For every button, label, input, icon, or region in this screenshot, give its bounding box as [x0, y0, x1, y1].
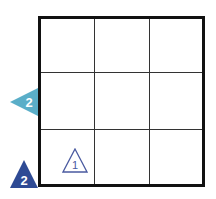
grid-cell-r1c2[interactable]	[95, 19, 149, 72]
left-clue-triangle: 2	[10, 88, 38, 116]
puzzle-grid: 1	[38, 16, 205, 187]
cell-clue-triangle: 1	[62, 148, 88, 173]
grid-cell-r3c1[interactable]: 1	[41, 130, 94, 184]
grid-cell-r2c3[interactable]	[150, 73, 202, 129]
cell-clue-value: 1	[72, 159, 78, 171]
grid-cell-r2c1[interactable]	[41, 73, 94, 129]
corner-clue-value: 2	[20, 173, 27, 188]
left-clue-value: 2	[25, 95, 32, 110]
grid-cell-r3c2[interactable]	[95, 130, 149, 184]
grid-cell-r3c3[interactable]	[150, 130, 202, 184]
corner-clue-triangle: 2	[10, 160, 38, 188]
grid-cell-r2c2[interactable]	[95, 73, 149, 129]
grid-cell-r1c1[interactable]	[41, 19, 94, 72]
grid-cell-r1c3[interactable]	[150, 19, 202, 72]
